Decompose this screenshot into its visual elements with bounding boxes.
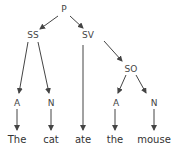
node-a2: A	[113, 98, 120, 108]
node-so: SO	[125, 64, 138, 74]
node-a1: A	[14, 98, 21, 108]
word-ate: ate	[75, 134, 91, 145]
edge-so-a	[118, 75, 126, 93]
edge-p-ss	[40, 16, 58, 29]
node-p: P	[61, 4, 67, 14]
word-the: The	[7, 134, 27, 145]
edge-ss-a	[19, 42, 28, 93]
edge-sv-so	[104, 41, 122, 61]
word-mouse: mouse	[137, 134, 171, 145]
node-n1: N	[48, 98, 55, 108]
edge-p-sv	[70, 16, 83, 28]
edge-ss-n	[38, 42, 49, 93]
node-ss: SS	[27, 30, 39, 40]
parse-tree-diagram: P SS SV SO A N A N The cat ate the mouse	[0, 0, 179, 154]
word-cat: cat	[43, 134, 59, 145]
node-sv: SV	[82, 30, 95, 40]
edge-so-n	[136, 75, 146, 93]
node-n2: N	[151, 98, 158, 108]
word-the-2: the	[107, 134, 123, 145]
